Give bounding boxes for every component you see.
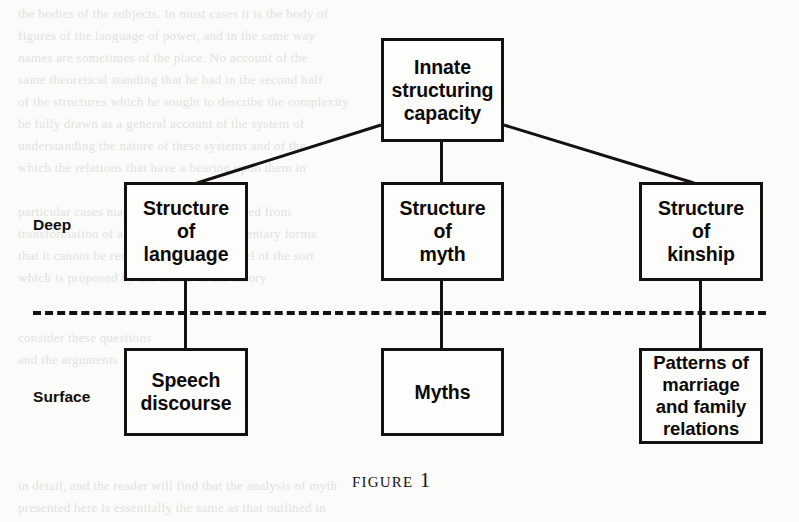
node-structure-of-kinship[interactable]: Structure of kinship: [639, 182, 763, 281]
node-innate-structuring-capacity[interactable]: Innate structuring capacity: [381, 38, 504, 142]
layer-label-surface: Surface: [33, 388, 91, 406]
node-structure-of-language[interactable]: Structure of language: [124, 182, 248, 281]
node-speech-discourse[interactable]: Speech discourse: [124, 348, 248, 436]
deep-surface-divider: [33, 311, 766, 315]
connector-myth-to-myths: [440, 281, 443, 349]
layer-label-deep: Deep: [33, 216, 71, 234]
node-myths[interactable]: Myths: [381, 348, 504, 436]
node-patterns-of-marriage-and-family-relations[interactable]: Patterns of marriage and family relation…: [639, 348, 763, 444]
figure-caption: Figure 1: [352, 468, 432, 493]
figure-canvas: the bodies of the subjects. In most case…: [0, 0, 799, 522]
node-structure-of-myth[interactable]: Structure of myth: [381, 182, 504, 281]
connector-kinship-to-patterns: [699, 281, 702, 349]
connector-language-to-speech: [184, 281, 187, 349]
